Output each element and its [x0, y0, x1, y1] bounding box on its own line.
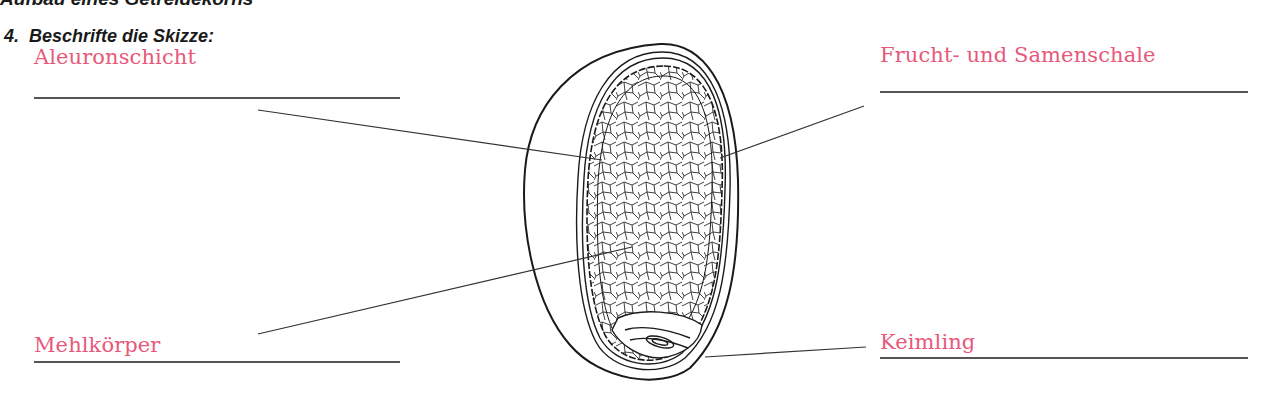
leader-line-frucht-und-samenschale [720, 106, 864, 158]
grain-diagram [0, 0, 1271, 396]
leader-line-aleuronschicht [258, 110, 602, 160]
leader-line-mehlkoerper [258, 247, 632, 334]
leader-line-keimling [705, 347, 866, 357]
leader-lines [258, 106, 866, 357]
